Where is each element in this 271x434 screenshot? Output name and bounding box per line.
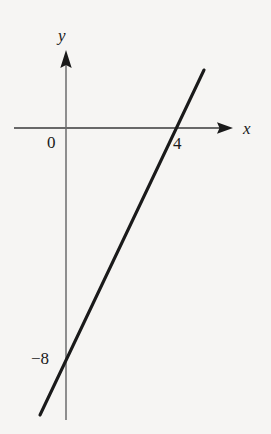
origin-label: 0 [47,134,56,151]
graph-figure: y x 0 4 −8 [0,0,271,434]
x-intercept-label: 4 [173,135,182,152]
y-axis-label: y [58,27,66,44]
x-axis-label: x [243,120,251,137]
y-intercept-label: −8 [31,350,49,367]
coordinate-plane-plot [0,0,271,434]
plotted-line [40,70,204,415]
